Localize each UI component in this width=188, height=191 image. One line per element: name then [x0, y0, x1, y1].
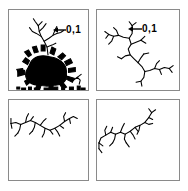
panel-bottom-left: [8, 99, 89, 181]
panel-top-right: [96, 9, 180, 91]
annotation-label-panel-1: 0,1: [66, 25, 81, 35]
fractal-figure: 0,1 0,1: [0, 0, 188, 191]
fractal-dendrite-horizontal: [9, 100, 88, 180]
annotation-arrow-left-2: [128, 25, 143, 33]
panel-bottom-right: [96, 99, 180, 181]
panel-top-left: [8, 9, 89, 91]
fractal-dendrite-rising: [97, 100, 179, 180]
fractal-dendrite-sparse: [97, 10, 179, 90]
annotation-label-panel-2: 0,1: [142, 24, 157, 34]
annotation-arrow-left-1: [53, 26, 67, 34]
fractal-cluster-dense: [9, 10, 88, 90]
